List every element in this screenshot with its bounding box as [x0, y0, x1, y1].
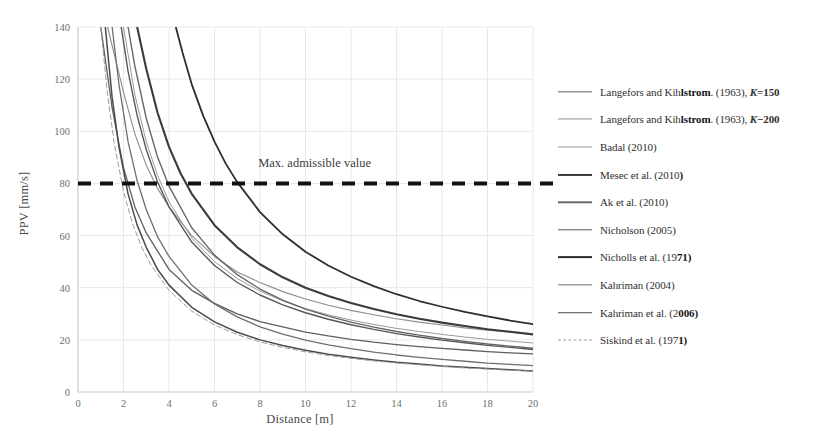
y-tick-label: 20: [42, 334, 70, 345]
legend-line-swatch: [558, 141, 592, 153]
legend-line-swatch: [558, 169, 592, 181]
x-tick-label: 14: [391, 398, 402, 409]
legend-item-label: Badal (2010): [600, 141, 657, 153]
legend-line-swatch: [558, 86, 592, 98]
y-tick-label: 0: [42, 387, 70, 398]
legend-item[interactable]: Nicholson (2005): [558, 216, 820, 244]
legend-item-label: Nicholls et al. (1971): [600, 251, 691, 263]
y-tick-label: 60: [42, 230, 70, 241]
y-tick-label: 80: [42, 178, 70, 189]
legend-line-swatch: [558, 113, 592, 125]
legend-item-label: Langefors and Kihlstrom. (1963), K−200: [600, 113, 779, 125]
legend-line-swatch: [558, 279, 592, 291]
legend-line-swatch: [558, 307, 592, 319]
legend-item-label: Mesec et al. (2010): [600, 169, 683, 181]
x-tick-label: 6: [212, 398, 217, 409]
x-tick-label: 8: [257, 398, 262, 409]
legend-line-swatch: [558, 334, 592, 346]
legend-item[interactable]: Ak et al. (2010): [558, 188, 820, 216]
series-line: [121, 27, 533, 350]
legend-line-swatch: [558, 196, 592, 208]
chart-svg: [0, 0, 560, 446]
data-series-group: [101, 27, 533, 371]
legend-item[interactable]: Langefors and Kihlstrom. (1963), K=150: [558, 78, 820, 106]
figure-container: 02468101214161820020406080100120140 Max.…: [0, 0, 820, 446]
plot-area: 02468101214161820020406080100120140 Max.…: [0, 0, 560, 446]
legend-item-label: Ak et al. (2010): [600, 196, 668, 208]
x-tick-label: 16: [437, 398, 448, 409]
legend-item[interactable]: Mesec et al. (2010): [558, 161, 820, 189]
x-tick-label: 20: [528, 398, 539, 409]
x-tick-label: 2: [121, 398, 126, 409]
legend-item[interactable]: Kahriman (2004): [558, 271, 820, 299]
legend-item-label: Nicholson (2005): [600, 224, 676, 236]
threshold-annotation: Max. admissible value: [258, 156, 371, 171]
legend-item[interactable]: Badal (2010): [558, 133, 820, 161]
y-tick-label: 100: [42, 126, 70, 137]
legend-item-label: Kahriman et al. (2006): [600, 307, 698, 319]
y-tick-label: 120: [42, 74, 70, 85]
legend-item[interactable]: Langefors and Kihlstrom. (1963), K−200: [558, 106, 820, 134]
legend-item-label: Siskind et al. (1971): [600, 334, 687, 346]
x-tick-label: 12: [346, 398, 357, 409]
legend-item[interactable]: Nicholls et al. (1971): [558, 244, 820, 272]
series-line: [101, 27, 533, 354]
legend-item-label: Kahriman (2004): [600, 279, 675, 291]
y-tick-label: 40: [42, 282, 70, 293]
legend-item[interactable]: Kahriman et al. (2006): [558, 299, 820, 327]
x-tick-label: 0: [75, 398, 80, 409]
y-tick-label: 140: [42, 22, 70, 33]
legend-line-swatch: [558, 251, 592, 263]
legend-line-swatch: [558, 224, 592, 236]
y-axis-title: PPV [mm/s]: [17, 144, 32, 264]
legend-item[interactable]: Siskind et al. (1971): [558, 326, 820, 354]
x-axis-title: Distance [m]: [0, 412, 560, 427]
x-tick-label: 10: [300, 398, 311, 409]
series-line: [176, 27, 533, 324]
x-tick-label: 4: [166, 398, 171, 409]
legend-item-label: Langefors and Kihlstrom. (1963), K=150: [600, 86, 779, 98]
x-tick-label: 18: [482, 398, 493, 409]
chart-legend: Langefors and Kihlstrom. (1963), K=150La…: [558, 78, 820, 354]
